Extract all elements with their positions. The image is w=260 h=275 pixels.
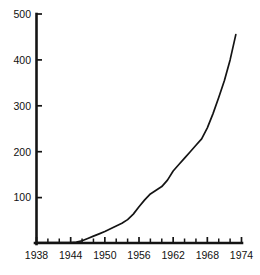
x-tick-label: 1968 [196, 249, 220, 261]
y-tick-label: 100 [13, 191, 31, 203]
y-tick-label: 400 [13, 54, 31, 66]
x-tick-label: 1944 [59, 249, 83, 261]
x-tick-label: 1974 [230, 249, 254, 261]
chart-container: 100200300400500 193819441950195619621968… [0, 0, 260, 275]
x-tick-label: 1938 [25, 249, 49, 261]
line-chart: 100200300400500 193819441950195619621968… [0, 0, 260, 275]
x-tick-label: 1956 [127, 249, 151, 261]
x-tick-label: 1950 [93, 249, 117, 261]
data-series-line [37, 35, 236, 243]
x-tick-label: 1962 [161, 249, 185, 261]
x-axis-tick-labels: 1938194419501956196219681974 [25, 249, 254, 261]
y-axis-tick-labels: 100200300400500 [13, 8, 31, 204]
y-tick-label: 200 [13, 146, 31, 158]
y-tick-label: 300 [13, 100, 31, 112]
y-tick-label: 500 [13, 8, 31, 20]
